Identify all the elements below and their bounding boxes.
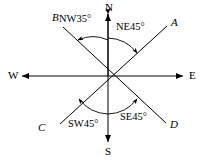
ray-label-d: D: [170, 119, 178, 130]
ray-label-b: B: [52, 12, 59, 23]
south-arrowhead-icon: [105, 135, 111, 142]
cardinal-label-south: S: [105, 146, 111, 157]
bearing-label-nw35: NW35°: [59, 14, 91, 25]
north-arrowhead-icon: [105, 14, 111, 21]
arc-sw45: [79, 99, 108, 114]
bearing-label-se45: SE45°: [120, 112, 147, 123]
cardinal-label-east: E: [189, 70, 196, 81]
ray-label-c: C: [38, 122, 45, 133]
bearing-label-sw45: SW45°: [68, 119, 98, 130]
axis-west-east: [22, 73, 183, 79]
arc-nw35: [78, 37, 108, 40]
cardinal-label-north: N: [105, 2, 113, 13]
arc-ne45: [108, 38, 137, 53]
bearing-label-ne45: NE45°: [116, 22, 145, 33]
ray-label-a: A: [171, 17, 178, 28]
west-arrowhead-icon: [22, 73, 29, 79]
east-arrowhead-icon: [176, 73, 183, 79]
compass-bearing-diagram: N S E W A B C D NW35° NE45° SW45° SE45°: [0, 0, 203, 162]
cardinal-label-west: W: [8, 70, 18, 81]
